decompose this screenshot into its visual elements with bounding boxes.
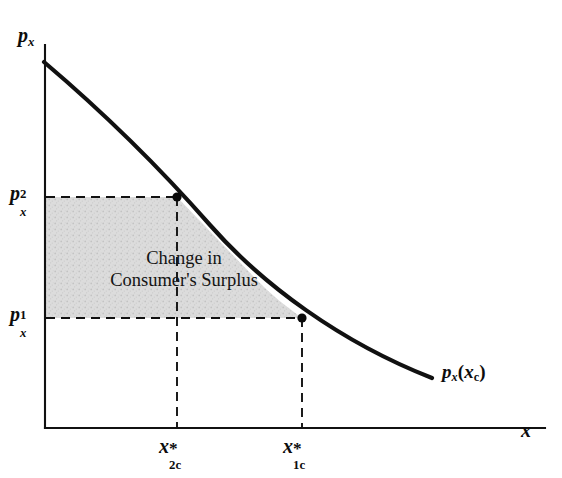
y-axis-label-base: p — [18, 24, 28, 46]
qty-high-subscript: 1c — [293, 459, 305, 472]
surplus-annotation: Change in Consumer's Surplus — [54, 248, 314, 292]
price-high-subscript: x — [20, 206, 27, 219]
curve-label-paren-close: ) — [479, 361, 485, 382]
surplus-annotation-line-1: Change in — [54, 248, 314, 270]
y-axis-label: px — [18, 25, 35, 48]
quantity-tick-label-high: x*1c — [283, 436, 308, 456]
quantity-tick-label-low: x*2c — [159, 436, 184, 456]
demand-curve-label: px(xc) — [442, 362, 486, 384]
price-low-subscript: x — [20, 327, 27, 340]
qty-high-base: x — [283, 435, 293, 457]
demand-curve-figure: px x p2x p1x x*2c x*1c px(xc) Change in … — [0, 0, 562, 478]
surplus-annotation-line-2: Consumer's Surplus — [54, 270, 314, 292]
qty-low-base: x — [159, 435, 169, 457]
figure-canvas — [0, 0, 562, 478]
qty-high-superscript: * — [293, 440, 302, 457]
curve-label-base: p — [442, 361, 452, 382]
point-high-price — [172, 192, 181, 201]
qty-low-subscript: 2c — [169, 459, 181, 472]
curve-label-arg: x — [464, 361, 474, 382]
price-low-superscript: 1 — [20, 309, 27, 322]
x-axis-label: x — [521, 420, 531, 440]
price-tick-label-high: p2x — [10, 183, 31, 203]
price-high-superscript: 2 — [20, 188, 27, 201]
x-axis-label-base: x — [521, 419, 531, 441]
price-high-base: p — [10, 182, 20, 204]
price-tick-label-low: p1x — [10, 304, 31, 324]
price-low-base: p — [10, 303, 20, 325]
qty-low-superscript: * — [169, 440, 178, 457]
y-axis-label-sub: x — [28, 35, 34, 49]
point-low-price — [297, 313, 306, 322]
